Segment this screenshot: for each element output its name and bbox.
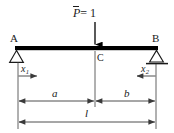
label-point-c: C bbox=[97, 53, 104, 63]
support-right-triangle bbox=[150, 50, 164, 62]
label-dim-l: l bbox=[85, 108, 88, 119]
load-equation: = 1 bbox=[80, 6, 96, 20]
load-symbol: P bbox=[73, 6, 80, 20]
support-left-pin bbox=[10, 50, 24, 62]
label-dim-a: a bbox=[52, 88, 58, 99]
overbar-rule bbox=[73, 6, 79, 7]
load-label: P= 1 bbox=[73, 6, 96, 19]
x1-base: x bbox=[21, 63, 25, 74]
label-x1: x1 bbox=[21, 64, 29, 75]
label-dim-b: b bbox=[124, 88, 130, 99]
label-support-a: A bbox=[10, 33, 18, 44]
beam-diagram: P= 1 A B C x1 x2 a b l bbox=[0, 0, 174, 133]
support-left-triangle bbox=[10, 50, 24, 62]
label-x2: x2 bbox=[141, 64, 149, 75]
load-symbol-overbar: P bbox=[73, 6, 80, 19]
beam-member bbox=[15, 46, 158, 50]
support-right-roller bbox=[146, 50, 168, 63]
x2-base: x bbox=[141, 63, 145, 74]
label-support-b: B bbox=[152, 33, 159, 44]
beam-bar bbox=[15, 46, 158, 50]
x2-subscript: 2 bbox=[146, 68, 149, 75]
x1-subscript: 1 bbox=[26, 68, 29, 75]
